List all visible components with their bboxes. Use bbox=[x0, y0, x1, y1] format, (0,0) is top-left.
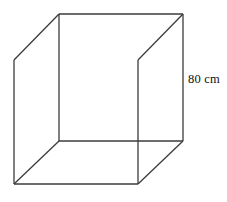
connector-bottom-left bbox=[14, 141, 59, 184]
edge-length-label: 80 cm bbox=[188, 72, 220, 86]
cube-connecting-edges bbox=[14, 14, 183, 184]
connector-top-left bbox=[14, 14, 59, 60]
cube-figure: 80 cm bbox=[0, 0, 227, 202]
connector-bottom-right bbox=[138, 141, 183, 184]
cube-drawing bbox=[0, 0, 227, 202]
connector-top-right bbox=[138, 14, 183, 60]
